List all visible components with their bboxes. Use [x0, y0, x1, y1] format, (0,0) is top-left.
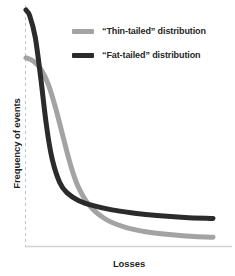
legend-item-fat-tailed: “Fat-tailed” distribution — [72, 44, 235, 66]
legend-label-fat-tailed: “Fat-tailed” distribution — [102, 50, 201, 60]
x-axis-title: Losses — [25, 258, 233, 269]
chart-container: “Thin-tailed” distribution “Fat-tailed” … — [0, 0, 235, 276]
legend-swatch-fat-tailed — [72, 53, 94, 58]
legend-swatch-thin-tailed — [72, 29, 94, 34]
chart-legend: “Thin-tailed” distribution “Fat-tailed” … — [72, 20, 235, 66]
legend-item-thin-tailed: “Thin-tailed” distribution — [72, 20, 235, 42]
legend-label-thin-tailed: “Thin-tailed” distribution — [102, 26, 206, 36]
y-axis-title: Frequency of events — [11, 84, 22, 204]
